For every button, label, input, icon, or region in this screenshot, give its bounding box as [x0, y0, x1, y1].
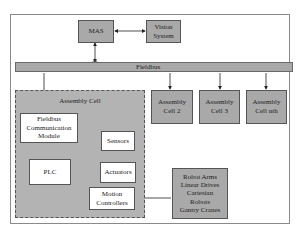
mas-node: MAS — [78, 20, 114, 43]
vision-label-line2: System — [153, 32, 174, 41]
devices-line5: Gantry Cranes — [180, 206, 221, 214]
cell2-label-line1: Assembly — [158, 98, 186, 107]
cell3-label-line2: Cell 3 — [211, 107, 228, 116]
celln-label-line1: Assembly — [253, 98, 281, 107]
fieldbus-label: Fieldbus — [136, 63, 160, 71]
devices-node: Robot Arms Linear Drives Cartesian Robot… — [172, 168, 228, 219]
mas-label: MAS — [88, 27, 103, 36]
sensors-node: Sensors — [101, 131, 135, 151]
assembly-cell-3-node: Assembly Cell 3 — [199, 90, 240, 124]
vision-system-node: Vision System — [146, 20, 181, 43]
sensors-label: Sensors — [107, 137, 129, 146]
vision-label-line1: Vision — [154, 23, 172, 32]
fieldbus-communication-module-node: Fieldbus Communication Module — [20, 113, 78, 143]
celln-label-line2: Cell nth — [255, 107, 277, 116]
actuators-label: Actuators — [104, 168, 131, 177]
cell3-label-line1: Assembly — [206, 98, 234, 107]
fcm-label-line3: Module — [38, 132, 60, 141]
assembly-cell-title: Assembly Cell — [16, 97, 144, 105]
devices-line3: Cartesian — [187, 189, 213, 197]
motion-label-line1: Motion — [102, 190, 123, 199]
fcm-label-line2: Communication — [26, 124, 71, 133]
motion-controllers-node: Motion Controllers — [89, 187, 135, 210]
devices-line1: Robot Arms — [183, 173, 217, 181]
assembly-cell-nth-node: Assembly Cell nth — [246, 90, 287, 124]
cell2-label-line2: Cell 2 — [164, 107, 181, 116]
actuators-node: Actuators — [100, 162, 136, 183]
assembly-cell-2-node: Assembly Cell 2 — [151, 90, 193, 124]
devices-line4: Robots — [190, 198, 210, 206]
devices-line2: Linear Drives — [181, 181, 220, 189]
motion-label-line2: Controllers — [96, 199, 128, 208]
plc-node: PLC — [29, 159, 71, 185]
fcm-label-line1: Fieldbus — [37, 115, 61, 124]
plc-label: PLC — [44, 168, 57, 177]
